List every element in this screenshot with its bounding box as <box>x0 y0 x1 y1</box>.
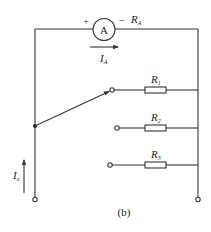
resistor-r1-icon <box>145 87 166 93</box>
resistor-r2-label: R2 <box>150 111 161 124</box>
contact-r3-icon[interactable] <box>108 163 112 167</box>
ammeter-symbol: A <box>100 24 108 36</box>
figure-caption: (b) <box>118 206 131 219</box>
shunt-ammeter-circuit: A + − RA IA Ix R1 R2 R3 (b) <box>0 0 211 232</box>
ammeter-resistance-label: RA <box>130 13 142 26</box>
switch-blade-arrow[interactable] <box>35 92 109 127</box>
switch-pivot-icon <box>33 124 37 128</box>
ammeter-plus-sign: + <box>83 16 88 26</box>
resistor-r3-label: R3 <box>150 148 161 161</box>
resistor-r3-icon <box>145 162 166 168</box>
resistor-r1-label: R1 <box>150 73 161 86</box>
contact-r2-icon[interactable] <box>115 126 119 130</box>
terminal-left-icon <box>33 197 37 201</box>
resistor-r2-icon <box>145 125 166 131</box>
contact-r1-icon[interactable] <box>110 88 114 92</box>
current-ix-label: Ix <box>12 169 20 182</box>
current-ia-label: IA <box>99 52 108 65</box>
ammeter-minus-sign: − <box>119 15 125 26</box>
terminal-right-icon <box>196 197 200 201</box>
